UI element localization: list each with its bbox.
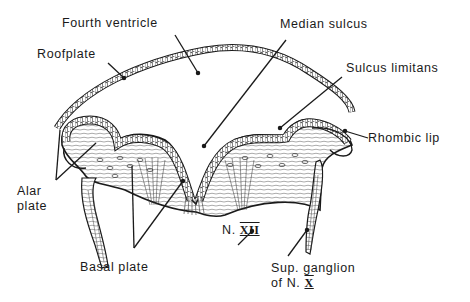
left-nerve-root xyxy=(82,178,108,268)
hindbrain-diagram xyxy=(0,0,470,302)
leader-median-sulcus xyxy=(204,40,286,146)
label-alar-plate-line1: Alar xyxy=(17,184,47,199)
label-sup-ganglion: Sup. ganglion of N. X xyxy=(271,261,355,291)
label-sup-ganglion-prefix: of N. xyxy=(271,276,300,290)
label-sup-ganglion-numeral: X xyxy=(304,276,313,290)
label-basal-plate: Basal plate xyxy=(80,260,148,275)
label-fourth-ventricle: Fourth ventricle xyxy=(62,16,158,31)
label-alar-plate-line2: plate xyxy=(17,199,47,214)
label-sup-ganglion-line1: Sup. ganglion xyxy=(271,261,355,276)
label-roofplate: Roofplate xyxy=(37,47,96,62)
roofplate-membrane xyxy=(57,48,352,128)
label-median-sulcus: Median sulcus xyxy=(280,17,368,32)
label-n-xii-prefix: N. xyxy=(222,223,236,237)
label-n-xii-numeral: XII xyxy=(240,223,260,237)
label-n-xii: N. XII xyxy=(222,223,260,238)
leader-alar-plate-a xyxy=(56,130,60,180)
label-sulcus-limitans: Sulcus limitans xyxy=(346,61,438,76)
label-alar-plate: Alar plate xyxy=(17,184,47,214)
leader-sup-ganglion xyxy=(288,230,307,256)
label-sup-ganglion-line2: of N. X xyxy=(271,276,355,291)
label-rhombic-lip: Rhombic lip xyxy=(368,131,440,146)
neural-tube-body xyxy=(62,118,352,216)
